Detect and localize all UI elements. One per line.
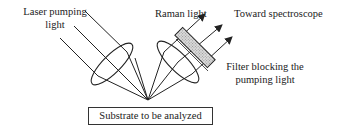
filter bbox=[175, 27, 215, 67]
toward-spectroscope-label: Toward spectroscope bbox=[234, 7, 323, 20]
substrate-box: Substrate to be analyzed bbox=[88, 107, 213, 125]
laser-label-line2: light bbox=[20, 18, 90, 31]
raman-setup-diagram: Laser pumping light Raman light Toward s… bbox=[0, 0, 346, 129]
filter-label: Filter blocking the pumping light bbox=[222, 60, 308, 86]
filter-label-line2: pumping light bbox=[222, 73, 308, 86]
filter-label-line1: Filter blocking the bbox=[222, 60, 308, 73]
laser-label-line1: Laser pumping bbox=[20, 5, 90, 18]
raman-light-label: Raman light bbox=[155, 7, 207, 20]
laser-pumping-light-label: Laser pumping light bbox=[20, 5, 90, 31]
scattered-rays bbox=[148, 14, 232, 100]
